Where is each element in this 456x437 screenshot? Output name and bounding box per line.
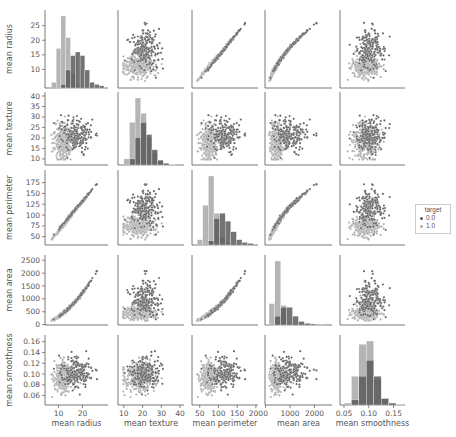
svg-text:0.16: 0.16: [23, 337, 40, 346]
legend-title: target: [416, 205, 450, 214]
svg-text:35: 35: [30, 102, 40, 111]
legend-marker-icon: [420, 217, 423, 220]
panel-4-3: [265, 335, 332, 405]
svg-text:2500: 2500: [21, 256, 40, 265]
svg-text:2000: 2000: [21, 269, 40, 278]
svg-text:20: 20: [30, 36, 40, 45]
pairplot-figure: 10152025mean radius10152025303540mean te…: [0, 0, 456, 437]
svg-text:25: 25: [30, 123, 40, 132]
y-axis-label: mean area: [5, 268, 14, 311]
svg-text:0.10: 0.10: [23, 370, 40, 379]
svg-text:125: 125: [26, 200, 41, 209]
pairplot-canvas: 10152025mean radius10152025303540mean te…: [0, 0, 456, 437]
legend: target 0.0 1.0: [415, 204, 451, 234]
panel-1-0: [45, 92, 108, 165]
panel-3-0: [45, 255, 108, 325]
panel-0-4: [340, 10, 405, 88]
panel-3-4: [340, 255, 405, 325]
svg-text:20: 20: [138, 409, 148, 418]
y-axis-label: mean texture: [5, 101, 14, 155]
svg-text:10: 10: [30, 154, 40, 163]
svg-text:500: 500: [26, 307, 41, 316]
svg-text:150: 150: [26, 189, 41, 198]
svg-text:0.05: 0.05: [336, 409, 353, 418]
svg-text:50: 50: [30, 232, 40, 241]
x-axis-label: mean texture: [124, 419, 178, 428]
svg-text:40: 40: [175, 409, 185, 418]
panel-1-4: [340, 92, 405, 165]
svg-text:1000: 1000: [281, 409, 300, 418]
svg-text:175: 175: [26, 178, 41, 187]
svg-text:20: 20: [78, 409, 88, 418]
y-axis-label: mean smoothness: [5, 333, 14, 407]
svg-text:15: 15: [30, 144, 40, 153]
legend-item-1: 1.0: [416, 222, 450, 230]
svg-text:1500: 1500: [21, 282, 40, 291]
panel-2-2: [192, 170, 258, 245]
x-axis-label: mean perimeter: [193, 419, 259, 428]
x-axis-label: mean smoothness: [336, 419, 410, 428]
svg-text:0.12: 0.12: [23, 359, 40, 368]
svg-text:0.10: 0.10: [360, 409, 377, 418]
x-axis-label: mean area: [277, 419, 320, 428]
panel-1-1: [118, 92, 184, 165]
svg-text:40: 40: [30, 92, 40, 101]
svg-text:0: 0: [35, 320, 40, 329]
svg-text:15: 15: [30, 50, 40, 59]
svg-text:75: 75: [30, 221, 40, 230]
legend-label: 0.0: [426, 214, 435, 222]
svg-text:10: 10: [30, 65, 40, 74]
panel-4-0: [45, 335, 108, 405]
svg-text:0.08: 0.08: [23, 380, 40, 389]
panel-1-2: [192, 92, 258, 165]
panel-2-0: [45, 170, 108, 245]
legend-marker-icon: [420, 225, 423, 228]
x-axis-label: mean radius: [52, 419, 102, 428]
svg-text:0: 0: [263, 409, 268, 418]
svg-text:0.15: 0.15: [385, 409, 402, 418]
y-axis-label: mean radius: [5, 24, 14, 74]
panel-1-3: [265, 92, 332, 165]
panel-0-3: [265, 10, 332, 88]
legend-item-0: 0.0: [416, 214, 450, 222]
svg-text:20: 20: [30, 133, 40, 142]
svg-text:25: 25: [30, 21, 40, 30]
svg-text:200: 200: [249, 409, 264, 418]
panel-4-1: [118, 335, 184, 405]
svg-text:0.06: 0.06: [23, 391, 40, 400]
panel-2-4: [340, 170, 405, 245]
svg-text:150: 150: [230, 409, 245, 418]
svg-text:100: 100: [211, 409, 226, 418]
panel-0-1: [118, 10, 184, 88]
panel-4-4: [340, 335, 405, 405]
svg-text:10: 10: [54, 409, 64, 418]
svg-text:0.14: 0.14: [23, 348, 40, 357]
panel-3-3: [265, 255, 332, 325]
panel-0-0: [45, 10, 108, 88]
panel-4-2: [192, 335, 258, 405]
y-axis-label: mean perimeter: [5, 174, 14, 240]
svg-text:30: 30: [30, 112, 40, 121]
panel-2-1: [118, 170, 184, 245]
panel-0-2: [192, 10, 258, 88]
panel-2-3: [265, 170, 332, 245]
svg-text:10: 10: [119, 409, 129, 418]
svg-text:1000: 1000: [21, 294, 40, 303]
legend-label: 1.0: [426, 222, 435, 230]
svg-text:30: 30: [157, 409, 167, 418]
panel-3-2: [192, 255, 258, 325]
svg-text:2000: 2000: [305, 409, 324, 418]
panel-3-1: [118, 255, 184, 325]
svg-text:50: 50: [195, 409, 205, 418]
svg-text:100: 100: [26, 211, 41, 220]
